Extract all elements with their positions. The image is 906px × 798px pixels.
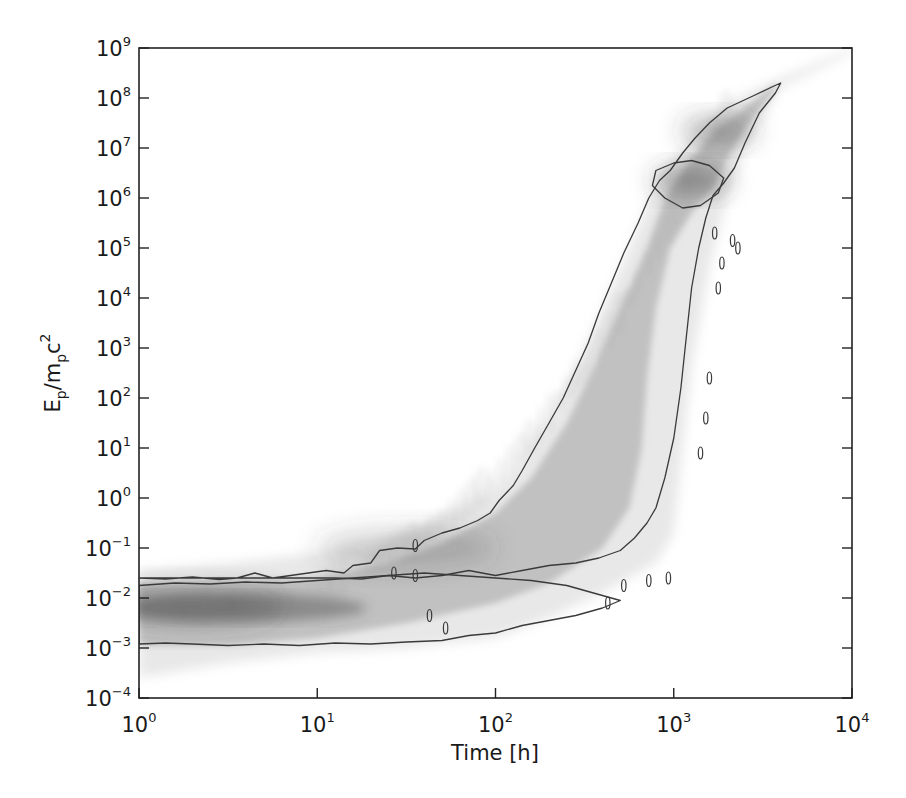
density-texture [349, 564, 359, 584]
x-tick-label: 101 [300, 710, 335, 737]
contour-island [698, 447, 702, 459]
x-tick-label: 104 [834, 710, 869, 737]
density-texture [620, 288, 636, 308]
plot-area [103, 48, 853, 678]
contour-island [716, 282, 720, 294]
y-tick-label: 109 [96, 34, 131, 61]
y-tick-label: 102 [96, 384, 131, 411]
x-axis: 100101102103104 [121, 688, 869, 737]
contour-island [666, 572, 670, 584]
x-tick-label: 100 [121, 710, 156, 737]
density-texture [447, 498, 457, 530]
x-tick-label: 102 [478, 710, 513, 737]
y-axis-title: Ep/mpc2 [37, 333, 69, 412]
y-tick-label: 10−4 [85, 684, 131, 711]
svg-text:Ep/mpc2: Ep/mpc2 [37, 333, 69, 412]
y-tick-label: 104 [96, 284, 131, 311]
contour-island [622, 580, 626, 592]
contour-island [720, 257, 724, 269]
y-tick-label: 106 [96, 184, 131, 211]
contour-island [704, 412, 708, 424]
density-texture [326, 562, 342, 602]
contour-island [606, 597, 610, 609]
y-tick-label: 108 [96, 84, 131, 111]
density-texture [594, 327, 604, 363]
density-texture [487, 469, 495, 489]
density-texture [643, 250, 653, 278]
density-chart: 100101102103104 10−410−310−210−110010110… [0, 0, 906, 798]
density-texture [496, 457, 506, 481]
y-tick-label: 101 [96, 434, 131, 461]
y-tick-label: 10−3 [85, 634, 131, 661]
y-tick-label: 103 [96, 334, 131, 361]
y-tick-label: 10−2 [85, 584, 131, 611]
x-axis-title: Time [h] [450, 741, 539, 765]
density-texture [473, 466, 489, 510]
density-texture [634, 269, 642, 293]
contour-island [736, 242, 740, 254]
y-tick-label: 10−1 [85, 534, 131, 561]
density-texture [669, 189, 685, 229]
contour-island [707, 372, 711, 384]
density-texture [522, 419, 538, 455]
contour-island [647, 575, 651, 587]
y-tick-label: 105 [96, 234, 131, 261]
y-tick-label: 107 [96, 134, 131, 161]
y-tick-label: 100 [96, 484, 131, 511]
x-tick-label: 103 [656, 710, 691, 737]
density-peak [680, 117, 756, 145]
contour-island [730, 235, 734, 247]
